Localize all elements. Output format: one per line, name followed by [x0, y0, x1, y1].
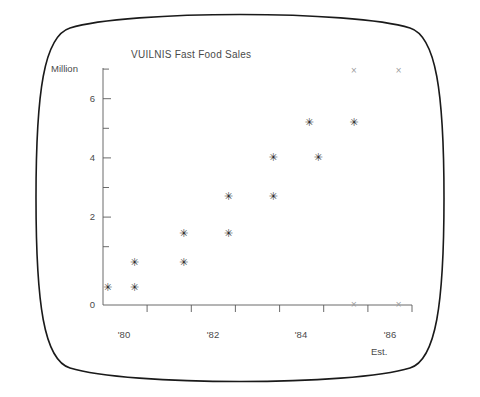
data-point-marker: ✳ — [269, 191, 278, 202]
data-point-marker: ✳ — [103, 281, 112, 292]
y-tick-label-0: 0 — [90, 300, 95, 310]
data-point-marker: × — [350, 67, 357, 75]
y-axis-unit-label: Million — [51, 64, 78, 74]
data-point-marker: ✳ — [224, 191, 233, 202]
y-axis — [103, 68, 111, 305]
y-tick-label-6: 6 — [90, 94, 95, 104]
data-point-marker: × — [395, 301, 402, 309]
data-point-marker: ✳ — [313, 151, 322, 162]
data-point-marker: ✳ — [130, 281, 139, 292]
x-tick-label-1980: '80 — [118, 330, 130, 340]
data-point-marker: ✳ — [269, 151, 278, 162]
y-tick-label-4: 4 — [90, 153, 95, 163]
data-point-marker: × — [395, 67, 402, 75]
data-point-marker: ✳ — [130, 257, 139, 268]
estimate-note: Est. — [371, 347, 387, 357]
crt-screen: VUILNIS Fast Food Sales Million 6 4 2 0 … — [0, 0, 480, 397]
data-point-marker: ✳ — [304, 117, 313, 128]
x-axis — [103, 305, 412, 312]
data-point-marker: ✳ — [179, 257, 188, 268]
data-point-marker: ✳ — [349, 117, 358, 128]
data-point-marker: ✳ — [224, 227, 233, 238]
y-tick-label-2: 2 — [90, 212, 95, 222]
x-tick-label-1986: '86 — [384, 330, 396, 340]
chart-title: VUILNIS Fast Food Sales — [131, 50, 251, 60]
data-point-marker: × — [350, 301, 357, 309]
x-tick-label-1982: '82 — [207, 330, 219, 340]
x-tick-label-1984: '84 — [295, 330, 307, 340]
data-point-marker: ✳ — [179, 227, 188, 238]
